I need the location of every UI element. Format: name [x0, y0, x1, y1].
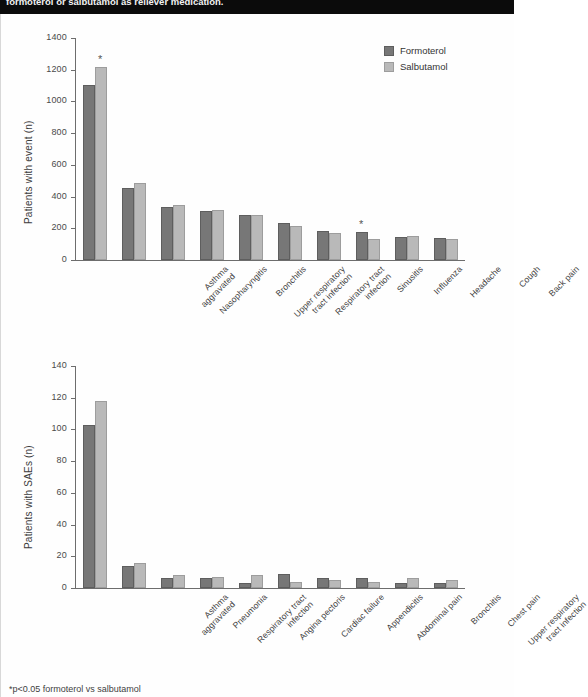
- bar-salbutamol: [290, 582, 302, 588]
- bar-salbutamol: [173, 575, 185, 588]
- bar-salbutamol: [95, 67, 107, 260]
- header-caption-text: formoterol or salbutamol as reliever med…: [6, 0, 224, 6]
- bar-formoterol: [161, 578, 173, 588]
- figure-page: Patients with event (n) 0200400600800100…: [0, 14, 514, 697]
- y-axis-tick: [71, 165, 75, 166]
- bar-salbutamol: [407, 236, 419, 260]
- y-axis-tick-label: 20: [31, 550, 67, 560]
- footnote-significance: *p<0.05 formoterol vs salbutamol: [9, 684, 141, 694]
- bar-formoterol: [83, 425, 95, 588]
- y-axis-tick-label: 1400: [31, 32, 67, 42]
- y-axis-tick-label: 200: [31, 222, 67, 232]
- bar-formoterol: [395, 237, 407, 260]
- bar-salbutamol: [212, 210, 224, 260]
- legend-label-salbutamol: Salbutamol: [400, 61, 448, 72]
- bar-salbutamol: [173, 205, 185, 260]
- x-axis-category-label: Upper respiratory tract infection: [489, 592, 588, 691]
- y-axis-tick-label: 1000: [31, 95, 67, 105]
- bar-formoterol: [356, 578, 368, 588]
- bar-formoterol: [434, 238, 446, 260]
- y-axis-tick: [71, 588, 75, 589]
- x-axis-line: [75, 588, 465, 589]
- y-axis-tick-label: 0: [31, 254, 67, 264]
- bar-salbutamol: [95, 401, 107, 588]
- bar-salbutamol: [329, 233, 341, 260]
- bar-formoterol: [200, 211, 212, 260]
- y-axis-tick-label: 60: [31, 487, 67, 497]
- legend-label-formoterol: Formoterol: [400, 45, 446, 56]
- bar-salbutamol: [134, 563, 146, 588]
- bar-formoterol: [278, 574, 290, 588]
- bar-formoterol: [200, 578, 212, 588]
- bar-salbutamol: [446, 580, 458, 588]
- y-axis-tick-label: 400: [31, 191, 67, 201]
- y-axis-tick: [71, 133, 75, 134]
- y-axis-tick: [71, 197, 75, 198]
- y-axis-tick-label: 80: [31, 455, 67, 465]
- bar-formoterol: [278, 223, 290, 260]
- y-axis-tick: [71, 461, 75, 462]
- bar-salbutamol: [446, 239, 458, 260]
- bar-salbutamol: [407, 578, 419, 588]
- y-axis-tick: [71, 101, 75, 102]
- y-axis-tick-label: 140: [31, 360, 67, 370]
- bar-formoterol: [239, 215, 251, 260]
- y-axis-tick: [71, 556, 75, 557]
- bar-formoterol: [434, 583, 446, 588]
- y-axis-line: [75, 366, 76, 588]
- significance-marker: *: [98, 56, 102, 62]
- y-axis-tick: [71, 366, 75, 367]
- chart-serious-adverse-events: Patients with SAEs (n) 02040608010012014…: [1, 344, 515, 684]
- bar-salbutamol: [368, 239, 380, 260]
- y-axis-line: [75, 38, 76, 260]
- header-bar: formoterol or salbutamol as reliever med…: [0, 0, 514, 14]
- x-axis-line: [75, 260, 465, 261]
- bar-formoterol: [83, 85, 95, 260]
- y-axis-tick: [71, 493, 75, 494]
- y-axis-tick-label: 100: [31, 423, 67, 433]
- y-axis-tick: [71, 38, 75, 39]
- bar-salbutamol: [329, 580, 341, 588]
- y-axis-tick: [71, 228, 75, 229]
- y-axis-tick: [71, 260, 75, 261]
- bar-salbutamol: [368, 582, 380, 588]
- bar-salbutamol: [251, 215, 263, 260]
- y-axis-tick-label: 800: [31, 127, 67, 137]
- bar-formoterol: [317, 231, 329, 260]
- y-axis-tick: [71, 525, 75, 526]
- y-axis-tick-label: 120: [31, 392, 67, 402]
- bar-formoterol: [317, 578, 329, 588]
- bar-formoterol: [122, 566, 134, 588]
- bar-salbutamol: [134, 183, 146, 260]
- bar-formoterol: [356, 232, 368, 260]
- significance-marker: *: [359, 221, 363, 227]
- bar-salbutamol: [251, 575, 263, 588]
- legend-swatch-salbutamol: [384, 62, 394, 72]
- bar-formoterol: [161, 207, 173, 260]
- legend-swatch-formoterol: [384, 46, 394, 56]
- y-axis-tick: [71, 70, 75, 71]
- y-axis-tick: [71, 429, 75, 430]
- bar-salbutamol: [290, 226, 302, 260]
- y-axis-tick-label: 0: [31, 582, 67, 592]
- y-axis-tick-label: 600: [31, 159, 67, 169]
- y-axis-tick-label: 40: [31, 519, 67, 529]
- bar-formoterol: [122, 188, 134, 260]
- bar-salbutamol: [212, 577, 224, 588]
- bar-formoterol: [239, 583, 251, 588]
- bar-formoterol: [395, 583, 407, 588]
- chart-adverse-events: Patients with event (n) 0200400600800100…: [1, 14, 515, 344]
- y-axis-tick-label: 1200: [31, 64, 67, 74]
- y-axis-tick: [71, 398, 75, 399]
